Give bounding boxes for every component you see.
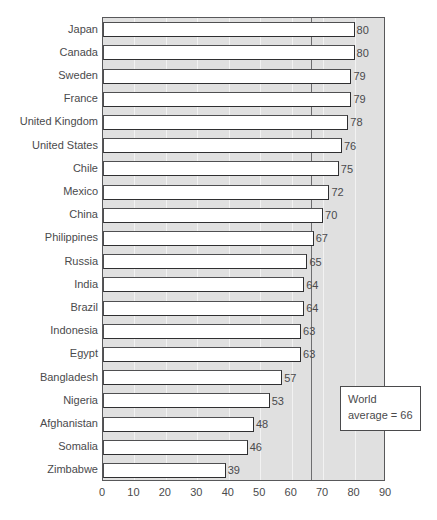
bar-row: 46 [103, 440, 384, 455]
bar-united-states: 76 [103, 138, 342, 153]
category-label-china: China [69, 209, 98, 220]
bar-value-label: 39 [228, 465, 240, 476]
bar-value-label: 79 [353, 94, 365, 105]
category-label-india: India [74, 278, 98, 289]
bar-row: 63 [103, 347, 384, 362]
x-tick-80: 80 [347, 487, 359, 498]
bar-nigeria: 53 [103, 393, 270, 408]
bar-row: 63 [103, 324, 384, 339]
bar-united-kingdom: 78 [103, 115, 348, 130]
bar-row: 79 [103, 69, 384, 84]
bar-row: 76 [103, 138, 384, 153]
bar-zimbabwe: 39 [103, 463, 226, 478]
category-label-chile: Chile [73, 162, 98, 173]
category-label-zimbabwe: Zimbabwe [47, 464, 98, 475]
x-tick-90: 90 [379, 487, 391, 498]
bar-value-label: 80 [357, 47, 369, 58]
bar-mexico: 72 [103, 185, 329, 200]
bar-row: 78 [103, 115, 384, 130]
category-label-indonesia: Indonesia [50, 325, 98, 336]
category-label-nigeria: Nigeria [63, 394, 98, 405]
x-tick-70: 70 [316, 487, 328, 498]
bar-row: 80 [103, 45, 384, 60]
bar-somalia: 46 [103, 440, 248, 455]
bar-row: 57 [103, 370, 384, 385]
category-label-japan: Japan [68, 23, 98, 34]
x-tick-20: 20 [159, 487, 171, 498]
bar-value-label: 65 [309, 256, 321, 267]
bar-value-label: 76 [344, 140, 356, 151]
bar-sweden: 79 [103, 69, 351, 84]
life-expectancy-bar-chart: JapanCanadaSwedenFranceUnited KingdomUni… [0, 0, 437, 520]
bar-row: 67 [103, 231, 384, 246]
world-average-callout: World average = 66 [340, 386, 421, 431]
category-label-somalia: Somalia [58, 441, 98, 452]
bar-china: 70 [103, 208, 323, 223]
bar-value-label: 78 [350, 117, 362, 128]
bar-japan: 80 [103, 22, 355, 37]
category-label-russia: Russia [64, 255, 98, 266]
x-tick-60: 60 [285, 487, 297, 498]
category-label-bangladesh: Bangladesh [40, 371, 98, 382]
bar-value-label: 48 [256, 419, 268, 430]
bar-value-label: 64 [306, 279, 318, 290]
bar-row: 79 [103, 92, 384, 107]
bar-value-label: 53 [272, 395, 284, 406]
bar-value-label: 72 [331, 187, 343, 198]
category-label-mexico: Mexico [63, 186, 98, 197]
x-tick-40: 40 [222, 487, 234, 498]
bar-indonesia: 63 [103, 324, 301, 339]
category-axis-labels: JapanCanadaSwedenFranceUnited KingdomUni… [0, 17, 98, 481]
bar-row: 72 [103, 185, 384, 200]
x-tick-10: 10 [127, 487, 139, 498]
bar-value-label: 79 [353, 71, 365, 82]
category-label-sweden: Sweden [58, 70, 98, 81]
bar-egypt: 63 [103, 347, 301, 362]
bar-india: 64 [103, 277, 304, 292]
bar-value-label: 75 [341, 163, 353, 174]
category-label-philippines: Philippines [45, 232, 98, 243]
bar-value-label: 80 [357, 24, 369, 35]
bar-row: 70 [103, 208, 384, 223]
bar-row: 64 [103, 301, 384, 316]
x-tick-50: 50 [253, 487, 265, 498]
x-tick-0: 0 [99, 487, 105, 498]
bar-philippines: 67 [103, 231, 314, 246]
category-label-united-states: United States [32, 139, 98, 150]
bar-value-label: 46 [250, 442, 262, 453]
category-label-brazil: Brazil [70, 302, 98, 313]
bar-row: 75 [103, 161, 384, 176]
bar-row: 39 [103, 463, 384, 478]
bar-brazil: 64 [103, 301, 304, 316]
category-label-egypt: Egypt [70, 348, 98, 359]
category-label-france: France [64, 93, 98, 104]
callout-line-2: average = 66 [348, 408, 413, 424]
bar-value-label: 63 [303, 326, 315, 337]
category-label-afghanistan: Afghanistan [40, 418, 98, 429]
category-label-united-kingdom: United Kingdom [20, 116, 98, 127]
category-label-canada: Canada [59, 46, 98, 57]
bar-chile: 75 [103, 161, 339, 176]
bar-value-label: 67 [316, 233, 328, 244]
bar-afghanistan: 48 [103, 417, 254, 432]
bar-value-label: 70 [325, 210, 337, 221]
bar-row: 65 [103, 254, 384, 269]
bar-row: 80 [103, 22, 384, 37]
bar-value-label: 57 [284, 372, 296, 383]
bar-value-label: 64 [306, 303, 318, 314]
callout-line-1: World [348, 392, 413, 408]
bar-bangladesh: 57 [103, 370, 282, 385]
bar-value-label: 63 [303, 349, 315, 360]
value-axis: 0102030405060708090 [102, 483, 385, 507]
bar-russia: 65 [103, 254, 307, 269]
bar-canada: 80 [103, 45, 355, 60]
bar-france: 79 [103, 92, 351, 107]
x-tick-30: 30 [190, 487, 202, 498]
bar-row: 64 [103, 277, 384, 292]
